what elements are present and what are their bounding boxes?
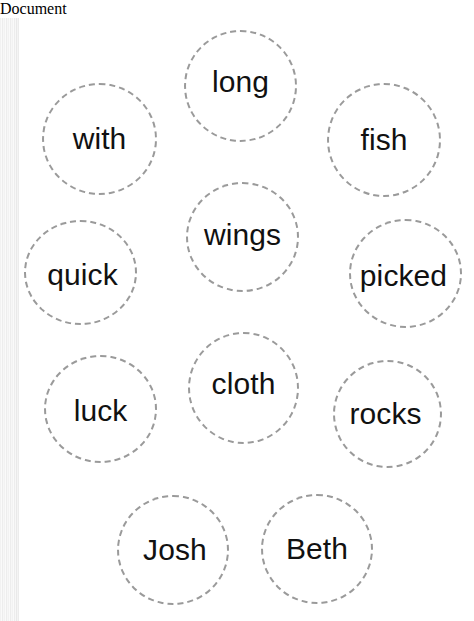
word-bubble-label: with xyxy=(73,124,127,154)
word-bubble-label: fish xyxy=(360,125,407,155)
word-bubble[interactable]: Beth xyxy=(261,494,373,604)
word-bubble[interactable]: rocks xyxy=(333,360,442,468)
word-bubble-label: picked xyxy=(360,261,447,291)
word-bubble[interactable]: fish xyxy=(327,83,441,197)
page-edge-artifact xyxy=(0,18,19,621)
word-bubble-label: Josh xyxy=(143,535,207,565)
word-bubble-label: rocks xyxy=(349,399,421,429)
word-bubble-label: luck xyxy=(74,396,128,426)
word-bubble[interactable]: cloth xyxy=(188,332,299,444)
word-bubble[interactable]: with xyxy=(42,83,157,195)
word-bubble[interactable]: wings xyxy=(186,182,299,292)
worksheet-page: withlongfishquickwingspickedluckclothroc… xyxy=(0,18,474,621)
word-bubble-label: Beth xyxy=(286,534,348,564)
word-bubble[interactable]: long xyxy=(184,30,297,142)
word-bubble-label: quick xyxy=(47,260,118,290)
word-bubble[interactable]: picked xyxy=(349,219,462,328)
word-bubble-label: cloth xyxy=(212,369,276,399)
word-bubble[interactable]: Josh xyxy=(117,495,229,605)
word-bubble-label: wings xyxy=(204,220,281,250)
word-bubble-label: long xyxy=(212,67,269,97)
word-bubble[interactable]: luck xyxy=(44,355,157,463)
word-bubble[interactable]: quick xyxy=(24,220,137,325)
